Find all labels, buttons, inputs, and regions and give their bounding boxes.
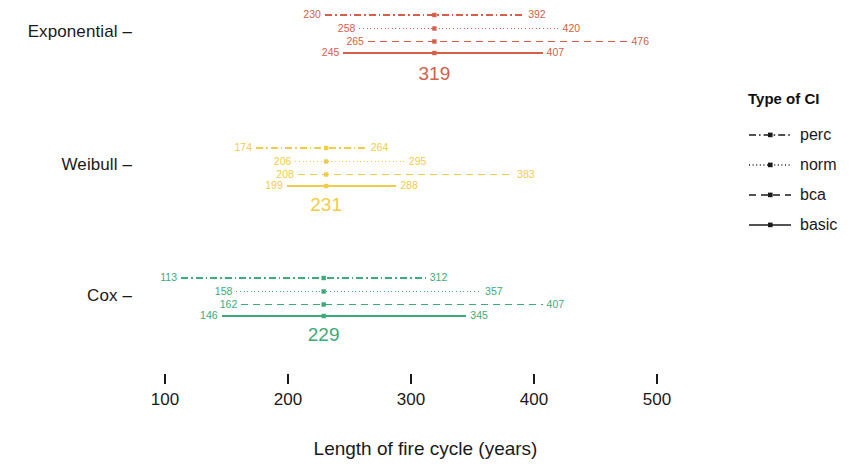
ci-upper-label-exponential-basic: 407 <box>547 47 565 58</box>
ci-lower-label-cox-norm: 158 <box>211 286 232 297</box>
ci-lower-label-weibull-bca: 208 <box>273 169 294 180</box>
legend-label-basic: basic <box>800 216 837 234</box>
ci-point-cox-bca <box>321 302 325 306</box>
group-label-weibull: Weibull – <box>0 155 132 175</box>
estimate-label-weibull: 231 <box>296 195 356 214</box>
ci-lower-label-cox-basic: 146 <box>197 310 218 321</box>
legend-swatch-perc-icon <box>748 127 792 143</box>
ci-lower-label-exponential-perc: 230 <box>300 9 321 20</box>
ci-lower-label-exponential-basic: 245 <box>318 47 339 58</box>
ci-point-weibull-perc <box>324 146 328 150</box>
legend-swatch-bca-icon <box>748 187 792 203</box>
group-label-cox: Cox – <box>0 286 132 306</box>
ci-point-cox-norm <box>321 289 325 293</box>
forest-plot: 230392258420265476245407319Exponential –… <box>0 0 851 469</box>
legend-item-norm[interactable]: norm <box>748 150 837 180</box>
ci-point-exponential-bca <box>432 39 436 43</box>
ci-lower-label-exponential-bca: 265 <box>343 36 364 47</box>
ci-upper-label-cox-basic: 345 <box>470 310 488 321</box>
estimate-label-cox: 229 <box>294 325 354 344</box>
legend-item-bca[interactable]: bca <box>748 180 837 210</box>
x-tick-label-300: 300 <box>381 390 441 410</box>
ci-point-exponential-basic <box>432 51 436 55</box>
legend-label-perc: perc <box>800 126 831 144</box>
ci-upper-label-exponential-bca: 476 <box>631 36 649 47</box>
ci-upper-label-weibull-perc: 264 <box>371 142 389 153</box>
legend-swatch-basic-icon <box>748 217 792 233</box>
ci-upper-label-cox-norm: 357 <box>485 286 503 297</box>
ci-upper-label-weibull-bca: 383 <box>517 169 535 180</box>
x-axis-title: Length of fire cycle (years) <box>0 438 851 460</box>
ci-point-weibull-bca <box>324 172 328 176</box>
ci-upper-label-weibull-norm: 295 <box>409 156 427 167</box>
legend-item-perc[interactable]: perc <box>748 120 837 150</box>
ci-upper-label-exponential-perc: 392 <box>528 9 546 20</box>
ci-point-exponential-norm <box>432 26 436 30</box>
group-label-exponential: Exponential – <box>0 22 132 42</box>
ci-lower-label-cox-bca: 162 <box>216 299 237 310</box>
ci-lower-label-cox-perc: 113 <box>156 272 177 283</box>
ci-point-weibull-basic <box>324 184 328 188</box>
legend-item-basic[interactable]: basic <box>748 210 837 240</box>
ci-upper-label-cox-perc: 312 <box>430 272 448 283</box>
ci-lower-label-weibull-basic: 199 <box>262 180 283 191</box>
legend-label-bca: bca <box>800 186 826 204</box>
legend-swatch-norm-icon <box>748 157 792 173</box>
x-tick-label-100: 100 <box>135 390 195 410</box>
ci-point-cox-basic <box>321 314 325 318</box>
ci-point-exponential-perc <box>432 13 436 17</box>
estimate-label-exponential: 319 <box>404 64 464 83</box>
x-tick-label-200: 200 <box>258 390 318 410</box>
legend: Type of CIpercnormbcabasic <box>748 90 837 240</box>
legend-title: Type of CI <box>748 90 837 107</box>
ci-point-cox-perc <box>321 276 325 280</box>
legend-label-norm: norm <box>800 156 836 174</box>
ci-lower-label-exponential-norm: 258 <box>334 23 355 34</box>
x-tick-label-500: 500 <box>627 390 687 410</box>
ci-lower-label-weibull-perc: 174 <box>231 142 252 153</box>
ci-point-weibull-norm <box>324 159 328 163</box>
ci-upper-label-exponential-norm: 420 <box>563 23 581 34</box>
ci-upper-label-weibull-basic: 288 <box>400 180 418 191</box>
ci-upper-label-cox-bca: 407 <box>547 299 565 310</box>
ci-lower-label-weibull-norm: 206 <box>270 156 291 167</box>
x-tick-label-400: 400 <box>504 390 564 410</box>
